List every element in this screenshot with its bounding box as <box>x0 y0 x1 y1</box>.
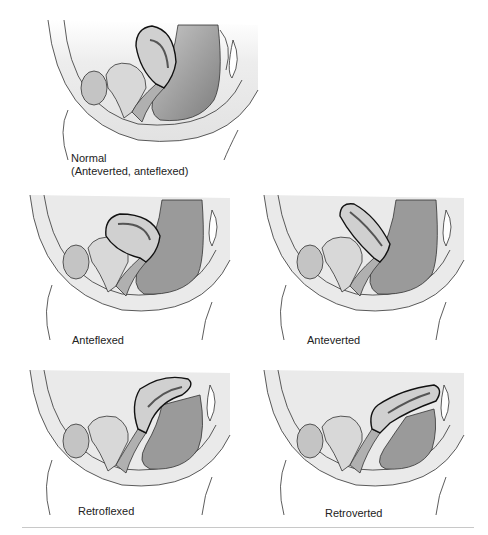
panel-retroflexed: Retroflexed <box>22 365 252 515</box>
label-retroverted-title: Retroverted <box>325 507 382 520</box>
label-anteflexed-title: Anteflexed <box>72 334 124 347</box>
pelvis-illustration-normal <box>28 0 268 160</box>
panel-anteflexed: Anteflexed <box>22 190 252 340</box>
panel-label-anteflexed: Anteflexed <box>72 334 124 347</box>
panel-anteverted: Anteverted <box>256 190 486 340</box>
pelvis-illustration-retroflexed <box>22 365 252 515</box>
label-normal-subtitle: (Anteverted, anteflexed) <box>71 165 188 178</box>
bottom-divider <box>22 527 474 528</box>
pelvis-illustration-anteverted <box>256 190 486 340</box>
label-anteverted-title: Anteverted <box>307 334 360 347</box>
pelvis-illustration-anteflexed <box>22 190 252 340</box>
panel-label-retroflexed: Retroflexed <box>78 505 134 518</box>
panel-label-normal: Normal (Anteverted, anteflexed) <box>71 152 188 178</box>
label-retroflexed-title: Retroflexed <box>78 505 134 518</box>
pelvis-illustration-retroverted <box>256 365 486 515</box>
panel-label-anteverted: Anteverted <box>307 334 360 347</box>
panel-label-retroverted: Retroverted <box>325 507 382 520</box>
panel-normal: Normal (Anteverted, anteflexed) <box>28 0 268 160</box>
label-normal-title: Normal <box>71 152 188 165</box>
panel-retroverted: Retroverted <box>256 365 486 515</box>
